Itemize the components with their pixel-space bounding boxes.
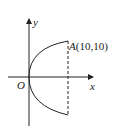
- coordinate-diagram: y x O A(10,10): [0, 0, 125, 137]
- point-a-coords: (10,10): [76, 40, 108, 53]
- point-a-label: A(10,10): [68, 40, 108, 53]
- x-axis-label: x: [89, 80, 95, 92]
- y-axis-label: y: [32, 16, 38, 28]
- origin-label: O: [17, 79, 25, 91]
- parabola-curve: [29, 41, 68, 115]
